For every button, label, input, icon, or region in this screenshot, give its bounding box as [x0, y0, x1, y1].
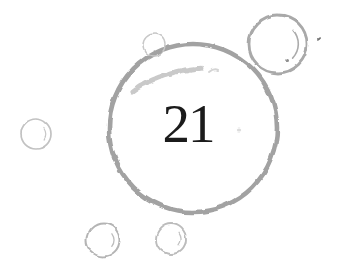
bubble-bottom-left-highlight-0 — [112, 234, 114, 247]
bubble-main-highlight-0 — [132, 68, 204, 92]
bubble-left — [21, 119, 51, 149]
bubble-main-highlight-1 — [209, 69, 218, 72]
bubble-left-highlight-0 — [44, 129, 46, 140]
bubble-illustration: 21 — [0, 0, 346, 271]
bubble-bottom-mid-highlight-0 — [179, 233, 181, 245]
chapter-number: 21 — [163, 93, 214, 154]
ink-speck — [317, 37, 322, 42]
faint-smudge — [236, 128, 240, 131]
bubble-top-right-highlight-0 — [293, 30, 299, 58]
illustration-page: 21 — [0, 0, 346, 271]
bubble-top-right-highlight-1 — [286, 59, 289, 62]
